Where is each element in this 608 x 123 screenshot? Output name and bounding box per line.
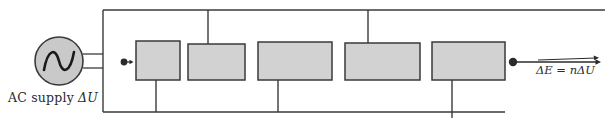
ac-supply-label-quantity: ΔU [78,90,98,105]
ac-supply-label-prefix: AC supply [8,90,74,105]
energy-gain-label: ΔE = nΔU [536,65,595,77]
ac-supply-source [35,37,83,85]
electrode-3 [258,42,332,80]
energy-gain-relation: = [556,63,566,77]
vector-arrow-shaft [538,58,596,60]
output-particle-dot-icon [509,58,517,66]
electrode-4 [345,43,420,80]
vector-arrow-head-icon [594,55,599,60]
energy-gain-rhs: nΔU [570,63,595,77]
electrode-5 [432,42,505,80]
energy-gain-vector-arrow-icon [538,55,599,60]
electrode-2 [188,44,245,80]
energy-gain-lhs: ΔE [536,63,553,77]
output-particle-arrow-head-icon [596,59,602,65]
ac-supply-label: AC supply ΔU [8,92,98,105]
ac-supply-leads [83,54,103,68]
accelerator-diagram: AC supply ΔU ΔE = nΔU [0,0,608,123]
input-particle [121,59,134,66]
electrodes [136,41,505,80]
electrode-1 [136,41,180,80]
input-particle-arrow-head-icon [130,60,134,65]
